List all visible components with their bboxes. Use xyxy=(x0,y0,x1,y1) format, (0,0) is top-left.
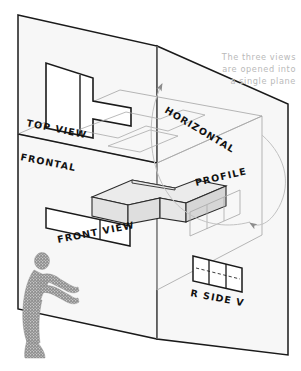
note-line-1: The three views xyxy=(221,52,296,62)
annotation-note: The three views are opened into a single… xyxy=(221,52,296,86)
note-line-3: a single plane xyxy=(230,76,296,86)
figure-canvas: TOP VIEW FRONTAL HORIZONTAL PROFILE FRON… xyxy=(0,0,301,371)
note-line-2: are opened into xyxy=(222,64,296,74)
glass-box-projection-figure: TOP VIEW FRONTAL HORIZONTAL PROFILE FRON… xyxy=(0,0,301,371)
